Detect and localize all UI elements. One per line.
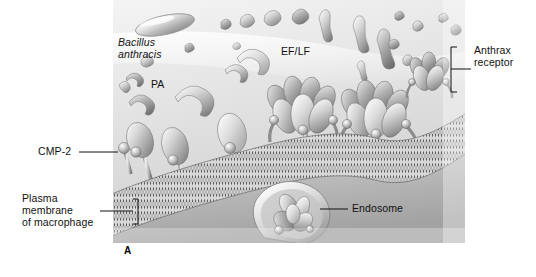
label-ef-lf: EF/LF — [281, 46, 310, 58]
label-bacillus-anthracis-line2: anthracis — [118, 49, 162, 61]
label-cmp2: CMP-2 — [38, 146, 71, 158]
label-endosome: Endosome — [352, 203, 403, 215]
label-pa: PA — [151, 79, 164, 91]
plasma-membrane-bracket — [133, 199, 138, 224]
figure-panel: Bacillus anthracis PA EF/LF Anthrax rece… — [0, 0, 536, 277]
label-bacillus-anthracis-line1: Bacillus — [118, 37, 155, 49]
label-anthrax-receptor-line1: Anthrax — [474, 45, 511, 57]
label-anthrax-receptor-line2: receptor — [474, 57, 513, 69]
label-plasma-membrane-line2: membrane — [22, 205, 73, 217]
label-leader-overlay — [0, 0, 536, 277]
panel-letter-a: A — [124, 245, 131, 256]
label-plasma-membrane-line1: Plasma — [22, 193, 58, 205]
label-plasma-membrane-line3: of macrophage — [22, 217, 93, 229]
